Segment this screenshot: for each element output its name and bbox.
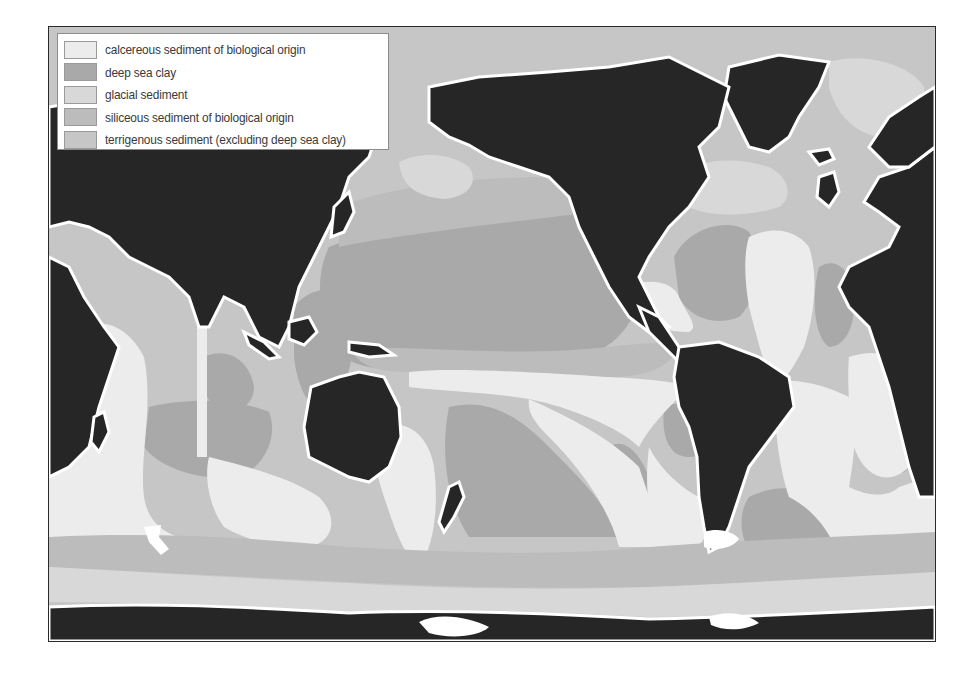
legend-label-deep-sea-clay: deep sea clay [105,65,176,80]
legend-label-terrigenous: terrigenous sediment (excluding deep sea… [105,132,346,147]
map-legend: calcereous sediment of biological origin… [57,33,389,150]
legend-item-glacial: glacial sediment [64,84,388,105]
legend-label-siliceous: siliceous sediment of biological origin [105,110,294,125]
legend-swatch-calcareous [64,41,97,59]
legend-swatch-deep-sea-clay [64,63,97,81]
legend-item-terrigenous: terrigenous sediment (excluding deep sea… [64,129,388,150]
legend-swatch-siliceous [64,108,97,126]
legend-swatch-terrigenous [64,131,97,149]
legend-swatch-glacial [64,86,97,104]
legend-item-calcareous: calcereous sediment of biological origin [64,39,388,60]
legend-item-siliceous: siliceous sediment of biological origin [64,107,388,128]
legend-label-glacial: glacial sediment [105,87,187,102]
legend-item-deep-sea-clay: deep sea clay [64,62,388,83]
legend-label-calcareous: calcereous sediment of biological origin [105,42,305,57]
